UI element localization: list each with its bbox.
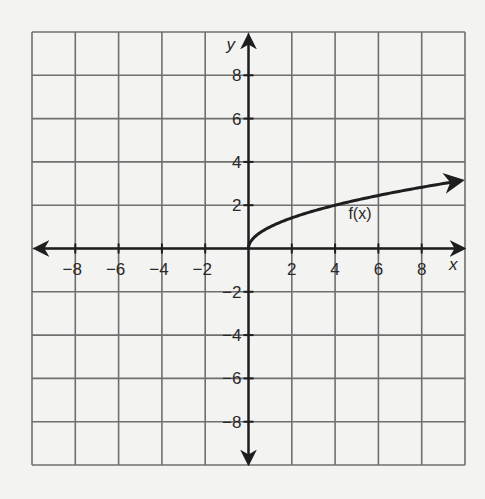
x-tick-label: −2 <box>193 260 212 279</box>
x-tick-label: 8 <box>417 260 426 279</box>
x-tick-label: 2 <box>287 260 296 279</box>
y-axis-label: y <box>226 35 237 54</box>
y-tick-label: 8 <box>232 66 241 85</box>
y-tick-label: 4 <box>232 153 241 172</box>
axes <box>36 36 463 463</box>
x-tick-label: −8 <box>63 260 82 279</box>
x-tick-label: 6 <box>374 260 383 279</box>
y-tick-label: 6 <box>232 110 241 129</box>
x-tick-label: 4 <box>330 260 339 279</box>
y-tick-label: −2 <box>222 283 241 302</box>
y-tick-label: 2 <box>232 196 241 215</box>
x-tick-label: −4 <box>149 260 168 279</box>
y-tick-label: −6 <box>222 369 241 388</box>
x-axis-label: x <box>448 255 458 274</box>
coordinate-plane: −8−6−4−224688642−2−4−6−8 x y f(x) <box>0 0 485 499</box>
y-tick-label: −4 <box>222 326 241 345</box>
function-label: f(x) <box>348 205 371 222</box>
x-tick-label: −6 <box>106 260 125 279</box>
y-tick-label: −8 <box>222 413 241 432</box>
